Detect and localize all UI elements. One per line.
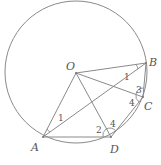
point-o [75,72,77,74]
angle-label-b1: 1 [124,72,130,82]
segment-oc [76,73,143,97]
label-d: D [109,143,119,156]
label-o: O [66,60,75,73]
label-a: A [30,141,39,154]
label-b: B [148,56,157,69]
point-a [42,136,44,138]
angle-label-d2: 2 [96,125,102,135]
segment-od [76,73,111,137]
segment-oa [43,73,76,137]
angle-label-a1: 1 [58,113,64,123]
angle-arc-a1 [47,129,50,132]
point-b [145,62,147,64]
segment-ob [76,63,146,73]
angle-label-d4: 4 [110,119,116,129]
angle-arc-b1 [136,65,138,70]
point-c [142,96,144,98]
angle-label-c4: 4 [129,98,135,108]
angle-label-c3: 3 [136,85,142,95]
geometry-diagram: O A B C D 1 1 2 4 3 4 [0,0,161,165]
label-c: C [144,100,153,113]
point-d [110,136,112,138]
